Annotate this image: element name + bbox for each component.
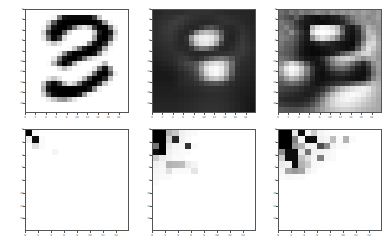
y-tick-label: 0 <box>145 128 151 131</box>
y-tick-label: 0 <box>18 8 24 11</box>
x-tick <box>204 231 205 233</box>
x-tick <box>278 113 279 115</box>
x-tick-label: 10 <box>328 116 331 119</box>
y-tick-label: 12 <box>271 204 277 207</box>
x-tick-label: 0 <box>151 234 153 237</box>
x-tick <box>183 113 184 115</box>
x-tick-label: 4 <box>50 234 52 237</box>
x-tick <box>214 113 215 115</box>
y-tick-label: 10 <box>145 60 151 63</box>
y-tick-label: 8 <box>145 179 151 182</box>
x-tick-label: 16 <box>107 116 110 119</box>
x-tick <box>108 113 109 115</box>
x-tick-label: 10 <box>341 234 344 237</box>
x-tick-label: 8 <box>193 116 195 119</box>
x-tick <box>356 231 357 233</box>
y-tick-label: 12 <box>145 70 151 73</box>
y-tick-label: 14 <box>145 80 151 83</box>
y-tick-label: 4 <box>18 153 24 156</box>
x-tick <box>320 113 321 115</box>
heatmap-digit-noisy-high-contrast <box>279 10 381 112</box>
y-tick-label: 6 <box>271 39 277 42</box>
y-tick-label: 6 <box>145 39 151 42</box>
x-tick-label: 18 <box>370 116 373 119</box>
axes-frame-digit-noisy-high-contrast <box>278 9 382 113</box>
heatmap-cell <box>375 224 381 230</box>
x-tick-label: 0 <box>277 234 279 237</box>
y-tick-label: 4 <box>271 153 277 156</box>
x-tick <box>173 113 174 115</box>
panel-sparse-coefficients-1: 0246810121402468101214 <box>25 129 129 231</box>
x-tick-label: 0 <box>151 116 153 119</box>
x-tick <box>361 113 362 115</box>
x-tick-label: 16 <box>234 116 237 119</box>
figure-canvas: 0246810121416180246810121416180246810121… <box>0 0 384 252</box>
x-tick <box>235 113 236 115</box>
x-tick <box>278 231 279 233</box>
axes-frame-sparse-coefficients-1 <box>25 129 129 231</box>
x-tick-label: 0 <box>24 234 26 237</box>
x-tick <box>67 113 68 115</box>
x-tick-label: 8 <box>203 234 205 237</box>
x-tick <box>217 231 218 233</box>
y-tick-label: 2 <box>18 140 24 143</box>
axes-frame-digit-original <box>25 9 129 113</box>
x-tick-label: 4 <box>172 116 174 119</box>
x-tick-label: 4 <box>177 234 179 237</box>
y-tick-label: 12 <box>271 70 277 73</box>
y-tick-label: 6 <box>145 166 151 169</box>
x-tick-label: 10 <box>202 116 205 119</box>
x-tick-label: 8 <box>66 116 68 119</box>
y-tick-label: 16 <box>18 91 24 94</box>
y-tick-label: 14 <box>271 217 277 220</box>
axes-frame-sparse-coefficients-2 <box>152 129 256 231</box>
y-tick-label: 4 <box>271 28 277 31</box>
x-tick-label: 18 <box>244 116 247 119</box>
y-tick-label: 4 <box>18 28 24 31</box>
x-tick <box>299 113 300 115</box>
x-tick <box>77 231 78 233</box>
x-tick-label: 0 <box>277 116 279 119</box>
x-tick-label: 8 <box>76 234 78 237</box>
x-tick-label: 12 <box>354 234 357 237</box>
y-tick-label: 12 <box>18 70 24 73</box>
x-tick <box>330 113 331 115</box>
x-tick-label: 12 <box>213 116 216 119</box>
x-tick <box>46 113 47 115</box>
x-tick <box>64 231 65 233</box>
y-tick-label: 0 <box>145 8 151 11</box>
x-tick <box>165 231 166 233</box>
x-tick-label: 4 <box>298 116 300 119</box>
y-tick-label: 2 <box>145 140 151 143</box>
x-tick-label: 8 <box>319 116 321 119</box>
x-tick <box>194 113 195 115</box>
y-tick-label: 0 <box>271 128 277 131</box>
x-tick-label: 14 <box>114 234 117 237</box>
y-tick-label: 14 <box>271 80 277 83</box>
x-tick-label: 4 <box>303 234 305 237</box>
y-tick-label: 6 <box>18 39 24 42</box>
panel-digit-original: 024681012141618024681012141618 <box>25 9 129 113</box>
heatmap-cell <box>250 107 255 112</box>
x-tick <box>87 113 88 115</box>
x-tick-label: 12 <box>101 234 104 237</box>
x-tick <box>343 231 344 233</box>
x-tick <box>56 113 57 115</box>
x-tick <box>191 231 192 233</box>
x-tick-label: 12 <box>339 116 342 119</box>
y-tick-label: 12 <box>18 204 24 207</box>
y-tick-label: 14 <box>18 217 24 220</box>
x-tick <box>152 231 153 233</box>
y-tick-label: 14 <box>18 80 24 83</box>
heatmap-cell <box>123 107 128 112</box>
x-tick <box>330 231 331 233</box>
y-tick-label: 16 <box>271 91 277 94</box>
x-tick-label: 6 <box>182 116 184 119</box>
x-tick-label: 0 <box>24 116 26 119</box>
x-tick-label: 14 <box>349 116 352 119</box>
x-tick <box>369 231 370 233</box>
heatmap-cell <box>122 224 128 230</box>
y-tick-label: 6 <box>271 166 277 169</box>
y-tick-label: 4 <box>145 153 151 156</box>
x-tick <box>25 113 26 115</box>
